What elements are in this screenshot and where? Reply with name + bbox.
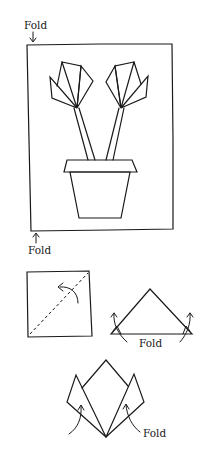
- up-arrow-icon: [33, 233, 39, 243]
- bottom-fold-label: Fold: [28, 244, 51, 256]
- paper-square: [27, 271, 92, 337]
- step-2-fold-label: Fold: [139, 337, 162, 349]
- diagonal-fold-line: [30, 273, 88, 334]
- step-1-square: [27, 271, 92, 337]
- left-tulip-right-petal: [77, 66, 93, 108]
- pot-body: [70, 172, 130, 218]
- left-tulip: [50, 62, 95, 160]
- paper-triangle: [111, 289, 192, 334]
- right-tulip: [106, 62, 148, 160]
- top-fold-label: Fold: [24, 19, 47, 31]
- right-tulip-left-petal: [106, 66, 121, 108]
- curved-arrow-icon: [58, 283, 78, 303]
- left-fold-arrow-icon: [111, 313, 127, 342]
- right-stem: [113, 108, 124, 160]
- flower-pot: [64, 160, 137, 218]
- origami-diagram: Fold: [0, 0, 210, 476]
- picture-frame: [27, 44, 173, 231]
- main-frame-group: Fold: [24, 19, 173, 256]
- step-2-triangle: Fold: [111, 289, 193, 349]
- step-3-fold-label: Fold: [143, 427, 166, 439]
- down-arrow-icon: [30, 32, 36, 42]
- center-petal-top: [82, 360, 128, 388]
- step-3-tulip: Fold: [67, 360, 166, 439]
- left-tulip-left-petal: [50, 77, 77, 108]
- left-side-petal: [67, 375, 106, 437]
- left-petal-arrow-icon: [69, 405, 84, 434]
- pot-rim: [64, 160, 137, 172]
